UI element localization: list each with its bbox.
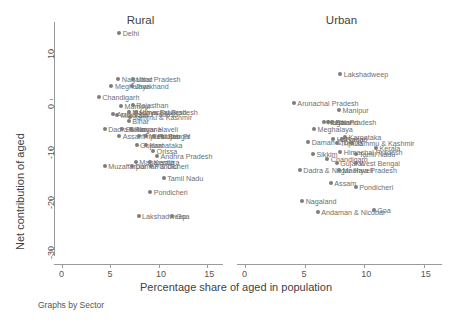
x-axis-tick-label: 15 [421, 269, 431, 279]
data-point [115, 113, 119, 117]
data-point [160, 134, 164, 138]
y-axis-tick-label: -10 [46, 146, 56, 159]
data-point-label: Manipur [343, 106, 369, 113]
x-axis-tick-label: 5 [302, 269, 307, 279]
panel-title-urban: Urban [245, 14, 438, 26]
data-point-label: Pondicheri [359, 184, 393, 191]
data-point [300, 199, 304, 203]
data-point [120, 127, 124, 131]
x-axis-title: Percentage share of aged in population [140, 281, 332, 293]
data-point [137, 214, 141, 218]
data-point [131, 77, 135, 81]
data-point [338, 72, 342, 76]
x-axis-tick [110, 265, 111, 268]
data-point [298, 168, 302, 172]
data-point [103, 164, 107, 168]
y-axis-tick-label: -30 [46, 246, 56, 259]
data-point-label: Madhya Pradesh [343, 167, 397, 174]
data-point [372, 208, 376, 212]
data-point [162, 176, 166, 180]
data-point [292, 101, 296, 105]
data-point [338, 150, 342, 154]
data-point [311, 152, 315, 156]
data-point [117, 31, 121, 35]
x-axis-tick [62, 265, 63, 268]
x-axis-tick [424, 265, 425, 268]
data-point [337, 108, 341, 112]
data-point [329, 181, 333, 185]
data-point-label: Pondicheri [155, 162, 189, 169]
data-point-label: Meghalaya [318, 126, 353, 133]
data-point [354, 185, 358, 189]
x-axis-tick-label: 10 [156, 269, 166, 279]
x-axis-tick [305, 265, 306, 268]
data-point [130, 84, 134, 88]
data-point-label: Lakshadweep [344, 70, 388, 77]
data-point [335, 161, 339, 165]
data-point [127, 119, 131, 123]
data-point [335, 141, 339, 145]
x-axis-tick-label: 10 [361, 269, 371, 279]
data-point-label: Andaman & Nicobar [321, 208, 385, 215]
x-axis-tick [245, 265, 246, 268]
x-axis-tick [364, 265, 365, 268]
panel-title-rural: Rural [62, 14, 219, 26]
data-point-label: Uttar Pr [165, 132, 190, 139]
data-point [316, 210, 320, 214]
x-axis-tick-label: 0 [59, 269, 64, 279]
data-point [144, 143, 148, 147]
data-point [330, 120, 334, 124]
data-point [137, 134, 141, 138]
figure-caption: Graphs by Sector [38, 300, 104, 310]
x-axis-tick [159, 265, 160, 268]
data-point [144, 134, 148, 138]
data-point [135, 143, 139, 147]
data-point [337, 168, 341, 172]
data-point [322, 120, 326, 124]
data-point-label: Delhi [123, 30, 139, 37]
x-axis-tick-label: 5 [107, 269, 112, 279]
data-point [116, 77, 120, 81]
x-axis-tick-label: 15 [204, 269, 214, 279]
data-point [129, 127, 133, 131]
data-point-label: Pondicheri [154, 188, 188, 195]
data-point [312, 127, 316, 131]
y-axis-tick-label: -20 [46, 196, 56, 209]
data-point [149, 164, 153, 168]
x-axis-tick-label: 0 [242, 269, 247, 279]
y-axis-tick [50, 99, 53, 100]
data-point-label: Nagaland [306, 198, 337, 205]
data-point [152, 134, 156, 138]
x-axis-line-rural [54, 264, 223, 265]
y-axis-tick-label: 0 [46, 104, 56, 109]
data-point [109, 84, 113, 88]
x-axis-tick [207, 265, 208, 268]
data-point [119, 104, 123, 108]
data-point [148, 190, 152, 194]
data-point [354, 161, 358, 165]
data-point [103, 127, 107, 131]
y-axis-title: Net contribution of aged [14, 133, 26, 250]
y-axis-tick-label: 10 [46, 49, 56, 59]
data-point [117, 134, 121, 138]
data-point [325, 157, 329, 161]
data-point [131, 103, 135, 107]
data-point [170, 214, 174, 218]
data-point-label: Jharkhand [135, 83, 169, 90]
data-point-label: Chandigarh [102, 94, 139, 101]
data-point [130, 164, 134, 168]
data-point-label: Goa [377, 207, 391, 214]
x-axis-line-urban [237, 264, 442, 265]
figure-canvas: Net contribution of agedPercentage share… [0, 0, 449, 326]
data-point-label: Tamil Nadu [167, 175, 203, 182]
data-point [151, 149, 155, 153]
data-point [306, 140, 310, 144]
data-point [350, 141, 354, 145]
data-point-label: Goa [176, 213, 190, 220]
data-point [97, 95, 101, 99]
